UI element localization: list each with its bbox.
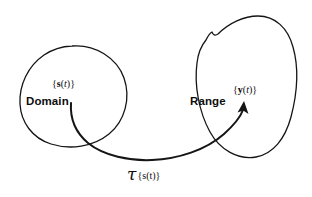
set-mapping-figure: Domain Range {s(t)} {y(t)} τ{s(t)} bbox=[0, 0, 312, 197]
domain-set-close: } bbox=[70, 78, 75, 89]
domain-label: Domain bbox=[26, 96, 69, 108]
range-set-close: } bbox=[252, 84, 257, 95]
domain-set-notation: {s(t)} bbox=[52, 79, 75, 89]
range-set-notation: {y(t)} bbox=[233, 85, 257, 95]
tau-symbol: τ bbox=[127, 164, 137, 184]
range-label: Range bbox=[190, 96, 226, 108]
mapping-arrow-curve bbox=[71, 103, 243, 160]
operator-label: τ{s(t)} bbox=[127, 166, 160, 183]
operator-set-close: } bbox=[156, 170, 161, 181]
